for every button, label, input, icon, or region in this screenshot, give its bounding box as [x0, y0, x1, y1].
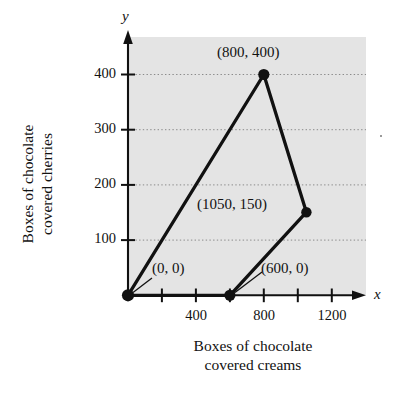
y-tick-label-300: 300 — [76, 120, 116, 137]
x-tick-label-800: 800 — [241, 307, 287, 324]
x-tick-label-400: 400 — [173, 307, 219, 324]
y-axis-title-line1: Boxes of chocolate — [18, 69, 37, 299]
y-tick-label-100: 100 — [76, 230, 116, 247]
x-axis-title: Boxes of chocolate covered creams — [118, 336, 388, 374]
y-tick-label-200: 200 — [76, 175, 116, 192]
scan-speck — [380, 135, 382, 137]
point-label-1050-150: (1050, 150) — [197, 196, 267, 213]
y-axis-title: Boxes of chocolate covered cherries — [18, 69, 56, 299]
x-tick-label-1200: 1200 — [309, 307, 355, 324]
y-axis-name: y — [122, 8, 129, 25]
x-axis-title-line2: covered creams — [118, 355, 388, 374]
x-axis-title-line1: Boxes of chocolate — [118, 336, 388, 355]
vertex-marker-800-400 — [258, 69, 269, 80]
point-label-600-0: (600, 0) — [261, 260, 309, 277]
y-tick-label-400: 400 — [76, 65, 116, 82]
point-label-0-0: (0, 0) — [152, 260, 185, 277]
vertex-marker-1050-150 — [301, 207, 311, 217]
plot-shaded-region — [128, 37, 366, 295]
point-label-800-400: (800, 400) — [217, 44, 280, 61]
vertex-marker-600-0 — [224, 290, 235, 301]
x-axis-name: x — [374, 286, 381, 303]
vertex-marker-0-0 — [122, 289, 134, 301]
y-axis-title-line2: covered cherries — [37, 69, 56, 299]
chart-figure: y x 400 300 200 100 400 800 1200 (800, 4… — [0, 0, 407, 406]
